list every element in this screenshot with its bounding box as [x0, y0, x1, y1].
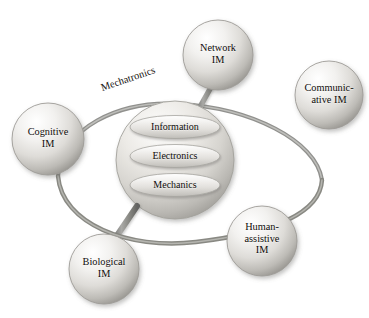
mechatronics-diagram: Mechatronics Network IM Communic- ative …: [0, 0, 369, 318]
satellite-human-assistive-im: [227, 206, 297, 276]
core-layer-information: [130, 116, 220, 139]
satellite-biological-im: [69, 234, 139, 304]
diagram-canvas: [0, 0, 369, 318]
core-layer-electronics: [130, 145, 220, 168]
core-layer-mechanics: [130, 174, 220, 197]
core-sphere: [116, 101, 234, 219]
satellite-communicative-im: [295, 61, 363, 129]
satellite-cognitive-im: [12, 103, 84, 175]
satellite-network-im: [183, 20, 253, 90]
